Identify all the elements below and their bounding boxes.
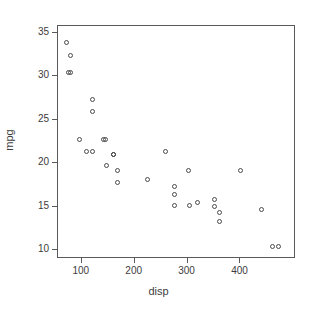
y-tick-label: 25 (9, 113, 49, 124)
data-point (115, 168, 120, 173)
y-tick-mark (52, 206, 57, 207)
data-point (238, 168, 243, 173)
x-tick-mark (239, 258, 240, 263)
data-point (111, 152, 116, 157)
y-tick-mark (52, 249, 57, 250)
data-point (212, 197, 217, 202)
x-axis-label: disp (0, 285, 317, 297)
data-point (68, 53, 73, 58)
data-point (77, 137, 82, 142)
plot-panel (57, 25, 295, 258)
data-point (103, 137, 108, 142)
scatter-plot-figure: 100200300400101520253035 disp mpg (0, 0, 317, 316)
data-point (145, 177, 150, 182)
data-point (84, 149, 89, 154)
data-point (217, 210, 222, 215)
y-tick-mark (52, 119, 57, 120)
data-point (172, 192, 177, 197)
data-point (90, 97, 95, 102)
data-points-layer (58, 26, 294, 257)
data-point (212, 204, 217, 209)
data-point (104, 163, 109, 168)
x-tick-label: 400 (219, 265, 259, 276)
x-tick-label: 300 (167, 265, 207, 276)
data-point (276, 244, 281, 249)
x-tick-label: 100 (61, 265, 101, 276)
x-tick-mark (187, 258, 188, 263)
data-point (111, 152, 116, 157)
data-point (172, 203, 177, 208)
y-tick-label: 35 (9, 26, 49, 37)
data-point (270, 244, 275, 249)
y-axis-label: mpg (3, 110, 15, 170)
data-point (115, 180, 120, 185)
data-point (259, 207, 264, 212)
data-point (187, 203, 192, 208)
y-tick-mark (52, 162, 57, 163)
data-point (90, 149, 95, 154)
data-point (217, 219, 222, 224)
data-point (186, 168, 191, 173)
data-point (101, 137, 106, 142)
y-tick-mark (52, 32, 57, 33)
data-point (90, 109, 95, 114)
x-tick-label: 200 (114, 265, 154, 276)
x-tick-mark (81, 258, 82, 263)
data-point (68, 70, 73, 75)
y-tick-mark (52, 75, 57, 76)
data-point (163, 149, 168, 154)
data-point (195, 200, 200, 205)
data-point (66, 70, 71, 75)
data-point (172, 184, 177, 189)
y-tick-label: 10 (9, 243, 49, 254)
y-tick-label: 15 (9, 200, 49, 211)
y-tick-label: 20 (9, 156, 49, 167)
x-tick-mark (134, 258, 135, 263)
y-tick-label: 30 (9, 69, 49, 80)
data-point (64, 40, 69, 45)
